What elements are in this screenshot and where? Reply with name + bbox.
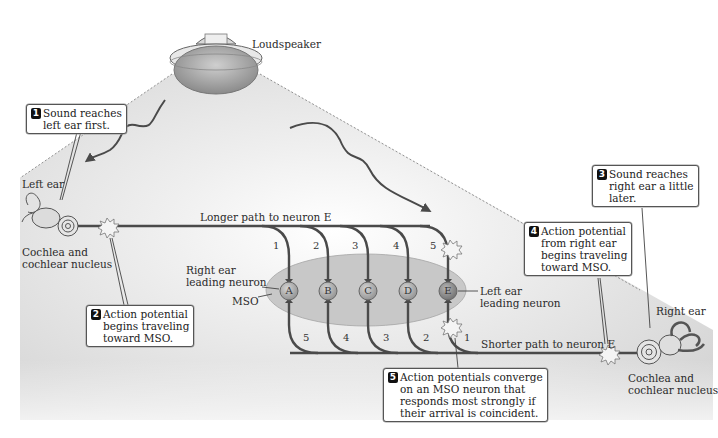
left-cochlea-label: Cochlea and cochlear nucleus bbox=[22, 246, 112, 270]
loudspeaker-label: Loudspeaker bbox=[252, 38, 321, 50]
top-path-number: 1 bbox=[273, 240, 279, 251]
bottom-path-number: 1 bbox=[464, 332, 470, 343]
shorter-path-label: Shorter path to neuron E bbox=[481, 338, 615, 350]
top-path-number: 5 bbox=[430, 240, 436, 251]
right-cochlea-label: Cochlea and cochlear nucleus bbox=[628, 372, 718, 396]
step-badge: 3 bbox=[597, 169, 607, 180]
bottom-path-number: 2 bbox=[423, 332, 429, 343]
step-badge: 2 bbox=[91, 309, 101, 320]
neuron-d: D bbox=[398, 281, 418, 301]
mso-label: MSO bbox=[232, 295, 259, 307]
step-badge: 4 bbox=[529, 226, 539, 237]
callout-text: Sound reaches right ear a little later. bbox=[609, 168, 694, 204]
loudspeaker-icon bbox=[170, 34, 262, 94]
top-path-number: 4 bbox=[393, 240, 399, 251]
callout-step-3: 3Sound reaches right ear a little later. bbox=[592, 165, 699, 207]
callout-text: Action potential begins traveling toward… bbox=[103, 308, 189, 344]
top-path-number: 2 bbox=[313, 240, 319, 251]
bottom-path-number: 3 bbox=[383, 332, 389, 343]
step-badge: 1 bbox=[31, 108, 41, 119]
callout-text: Sound reaches left ear first. bbox=[43, 107, 122, 131]
callout-step-1: 1Sound reaches left ear first. bbox=[26, 104, 127, 134]
bottom-path-number: 5 bbox=[303, 332, 309, 343]
callout-step-4: 4Action potential from right ear begins … bbox=[524, 222, 632, 276]
left-ear-label: Left ear bbox=[22, 178, 64, 190]
right-ear-label: Right ear bbox=[656, 305, 706, 317]
neuron-c: C bbox=[358, 281, 378, 301]
longer-path-label: Longer path to neuron E bbox=[200, 211, 331, 223]
callout-step-2: 2Action potential begins traveling towar… bbox=[86, 305, 194, 347]
top-path-number: 3 bbox=[352, 240, 358, 251]
neuron-a: A bbox=[279, 281, 299, 301]
neuron-b: B bbox=[318, 281, 338, 301]
step-badge: 5 bbox=[388, 372, 398, 383]
callout-step-5: 5Action potentials converge on an MSO ne… bbox=[383, 368, 548, 422]
callout-text: Action potential from right ear begins t… bbox=[541, 225, 627, 273]
left-ear-leading-neuron-label: Left ear leading neuron bbox=[480, 285, 561, 309]
bottom-path-number: 4 bbox=[343, 332, 349, 343]
neuron-e: E bbox=[438, 281, 458, 301]
callout-text: Action potentials converge on an MSO neu… bbox=[400, 371, 543, 419]
right-ear-leading-neuron-label: Right ear leading neuron bbox=[186, 264, 267, 288]
